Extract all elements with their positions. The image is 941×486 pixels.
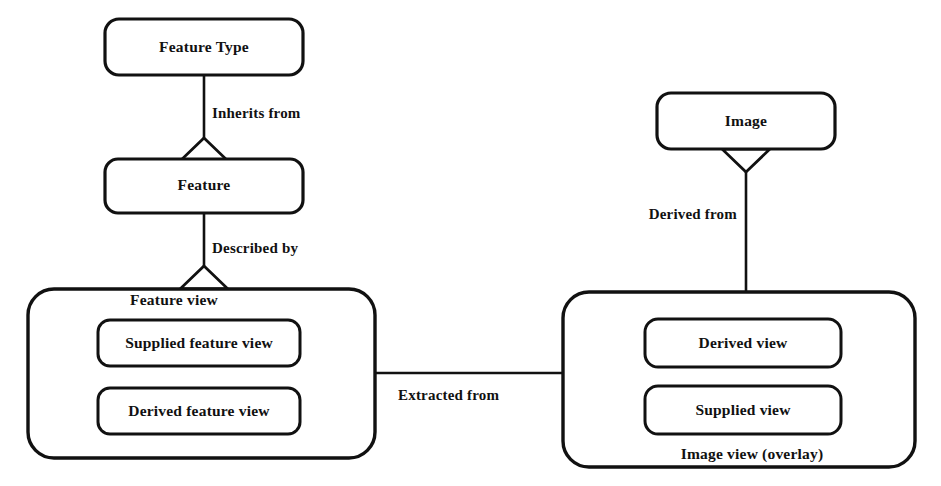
described-by-label: Described by [212,240,298,256]
node-image[interactable]: Image [657,93,835,149]
entity-relationship-diagram: Feature Type Feature Feature view Suppli… [0,0,941,486]
image-label: Image [725,112,767,129]
derived-from-triangle-down-icon [722,149,770,172]
diagram-canvas: Feature Type Feature Feature view Suppli… [0,0,941,486]
derived-from-label: Derived from [649,206,738,222]
node-feature-type[interactable]: Feature Type [105,19,303,75]
derived-view-label: Derived view [699,334,789,351]
feature-label: Feature [178,176,231,193]
node-supplied-feature-view[interactable]: Supplied feature view [98,320,300,366]
group-image-view[interactable]: Image view (overlay) Derived view Suppli… [563,292,915,467]
described-by-triangle-icon [180,266,228,289]
extracted-from-label: Extracted from [398,387,500,403]
supplied-view-label: Supplied view [695,401,791,418]
image-view-group-label: Image view (overlay) [681,445,824,463]
inherits-from-label: Inherits from [212,105,301,121]
supplied-feature-view-label: Supplied feature view [125,334,273,351]
feature-type-label: Feature Type [159,38,249,55]
derived-feature-view-label: Derived feature view [128,402,270,419]
group-feature-view[interactable]: Feature view Supplied feature view Deriv… [28,289,375,458]
node-feature[interactable]: Feature [105,159,303,213]
node-supplied-view[interactable]: Supplied view [645,386,841,434]
node-derived-view[interactable]: Derived view [645,319,841,367]
feature-view-group-label: Feature view [130,291,218,308]
node-derived-feature-view[interactable]: Derived feature view [98,388,300,434]
